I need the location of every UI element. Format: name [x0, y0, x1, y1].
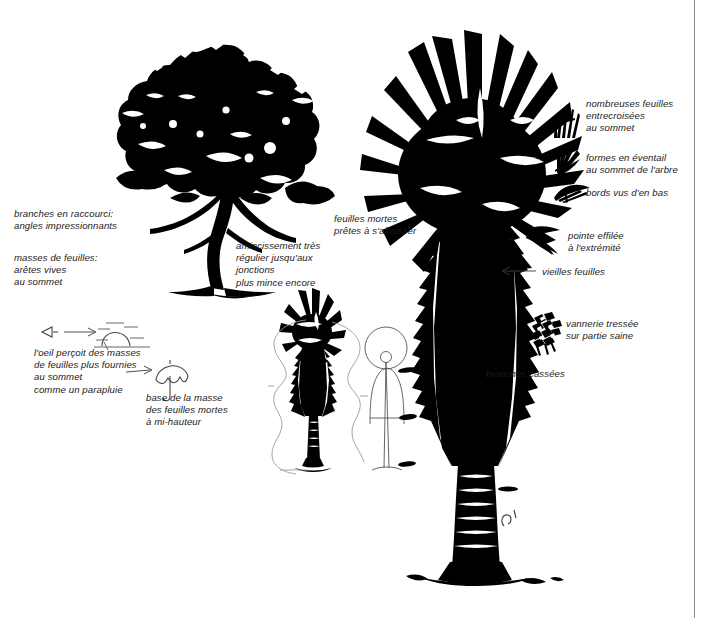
arrow-icon [126, 366, 152, 374]
note-bords-vus: bords vus d'en bas [586, 187, 715, 199]
dome-canopy-icon [94, 323, 150, 350]
note-branches-raccourci: branches en raccourci: angles impression… [14, 208, 184, 232]
note-pointe-effilee: pointe effilée à l'extrémité [568, 230, 698, 254]
woven-basket-icon [528, 312, 564, 356]
note-base-masse: base de la masse des feuilles mortes à m… [146, 392, 306, 429]
pointed-leaf-icon [524, 224, 564, 256]
note-formes-eventail: formes en éventail au sommet de l'arbre [586, 152, 715, 176]
ground-marks [492, 484, 542, 544]
eye-icon [42, 327, 58, 337]
note-feuilles-mortes: feuilles mortes prêtes à s'affaisser [334, 213, 484, 237]
note-masses-feuilles: masses de feuilles: arêtes vives au somm… [14, 252, 164, 289]
vieilles-feuilles-pointer [498, 265, 538, 277]
note-amincissement: amincissement très régulier jusqu'aux jo… [236, 240, 396, 289]
fan-leaf-icon [553, 148, 583, 176]
arrow-icon [64, 328, 96, 336]
human-figure-outline [360, 328, 430, 478]
note-vannerie: vannerie tressée sur partie saine [566, 318, 706, 342]
note-vieilles-feuilles: vieilles feuilles [542, 266, 662, 278]
note-branches-cassees: branches cassées [486, 368, 626, 380]
figure-plate: branches en raccourci: angles impression… [0, 0, 715, 618]
crossed-leaves-icon [553, 104, 581, 138]
note-nombreuses-feuilles: nombreuses feuilles entrecroisées au som… [586, 98, 715, 135]
page-rule [694, 0, 695, 618]
